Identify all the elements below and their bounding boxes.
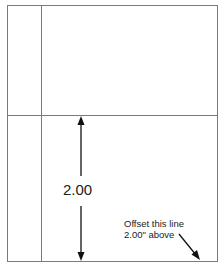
- arrow-up-icon: [78, 116, 85, 125]
- note-line-1: Offset this line: [124, 218, 184, 229]
- arrow-down-icon: [78, 252, 85, 261]
- offset-diagram: [0, 0, 221, 269]
- page-frame: [8, 6, 218, 262]
- dimension-label: 2.00: [63, 181, 92, 199]
- leader-line: [179, 234, 196, 255]
- note-line-2: 2.00" above: [124, 229, 174, 240]
